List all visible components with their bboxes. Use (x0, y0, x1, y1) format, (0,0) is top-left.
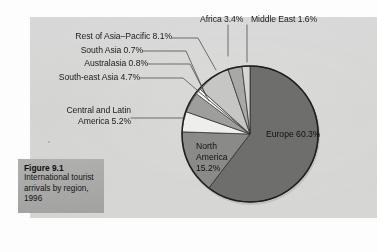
figure-caption-body: International tourist arrivals by region… (24, 173, 99, 204)
label-south-east-asia: South-east Asia 4.7% (12, 72, 140, 83)
label-north-america-line3: 15.2% (196, 163, 220, 174)
label-middle-east: Middle East 1.6% (251, 14, 317, 25)
label-south-asia: South Asia 0.7% (18, 45, 143, 56)
scanned-page: Rest of Asia–Pacific 8.1% South Asia 0.7… (0, 0, 377, 252)
label-north-america-line1: North (196, 141, 217, 152)
figure-caption-title: Figure 9.1 (24, 163, 99, 173)
label-north-america-line2: America (196, 152, 228, 163)
label-africa: Africa 3.4% (200, 14, 243, 25)
scan-speck (48, 141, 50, 143)
label-central-latin-america-line1: Central and Latin (28, 105, 131, 116)
label-europe: Europe 60.3% (266, 129, 320, 140)
label-rest-of-asia-pacific: Rest of Asia–Pacific 8.1% (18, 31, 172, 42)
figure-caption-box: Figure 9.1 International tourist arrival… (18, 159, 104, 213)
label-australasia: Australasia 0.8% (18, 58, 148, 69)
label-central-latin-america-line2: America 5.2% (28, 116, 131, 127)
